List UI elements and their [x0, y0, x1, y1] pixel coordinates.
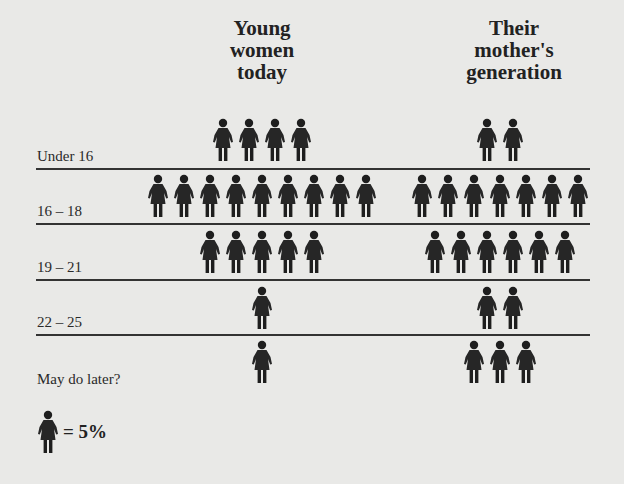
woman-figure-icon — [250, 340, 274, 384]
woman-figure-icon — [449, 230, 473, 274]
woman-figure-icon — [462, 174, 486, 218]
woman-figure-icon — [540, 174, 564, 218]
woman-figure-icon — [423, 230, 447, 274]
column-title-young-women: Young women today — [172, 17, 352, 83]
woman-figure-icon — [501, 286, 525, 330]
woman-figure-icon — [224, 174, 248, 218]
figures-mother — [475, 118, 525, 162]
woman-figure-icon — [514, 174, 538, 218]
woman-figure-icon — [276, 230, 300, 274]
figures-young — [146, 174, 378, 218]
woman-figure-icon — [475, 118, 499, 162]
woman-figure-icon — [566, 174, 590, 218]
woman-figure-icon — [198, 174, 222, 218]
woman-figure-icon — [250, 286, 274, 330]
woman-figure-icon — [475, 286, 499, 330]
woman-figure-icon — [224, 230, 248, 274]
figures-young — [250, 286, 274, 330]
row-label-19-21: 19 – 21 — [37, 259, 82, 276]
woman-figure-icon — [488, 174, 512, 218]
woman-figure-icon — [198, 230, 222, 274]
title-line: mother's — [424, 39, 604, 61]
woman-figure-icon — [354, 174, 378, 218]
woman-figure-icon — [289, 118, 313, 162]
woman-figure-icon — [553, 230, 577, 274]
figures-mother — [423, 230, 577, 274]
title-line: Young — [172, 17, 352, 39]
figures-mother — [475, 286, 525, 330]
woman-figure-icon — [410, 174, 434, 218]
woman-figure-icon — [462, 340, 486, 384]
title-line: women — [172, 39, 352, 61]
row-divider — [36, 168, 590, 170]
woman-figure-icon — [276, 174, 300, 218]
woman-figure-icon — [501, 230, 525, 274]
woman-figure-icon — [302, 174, 326, 218]
figures-mother — [410, 174, 590, 218]
legend: = 5% — [36, 410, 107, 454]
row-divider — [36, 279, 590, 281]
figures-young — [211, 118, 313, 162]
legend-text: = 5% — [63, 421, 107, 443]
row-label-under-16: Under 16 — [37, 148, 93, 165]
woman-figure-icon — [475, 230, 499, 274]
woman-figure-icon — [36, 410, 60, 454]
woman-figure-icon — [263, 118, 287, 162]
woman-figure-icon — [328, 174, 352, 218]
title-line: today — [172, 61, 352, 83]
woman-figure-icon — [250, 230, 274, 274]
woman-figure-icon — [302, 230, 326, 274]
row-label-22-25: 22 – 25 — [37, 314, 82, 331]
row-label-16-18: 16 – 18 — [37, 203, 82, 220]
row-label-may-do-later: May do later? — [37, 371, 120, 388]
row-divider — [36, 334, 590, 336]
woman-figure-icon — [527, 230, 551, 274]
woman-figure-icon — [211, 118, 235, 162]
row-divider — [36, 223, 590, 225]
title-line: generation — [424, 61, 604, 83]
woman-figure-icon — [146, 174, 170, 218]
woman-figure-icon — [436, 174, 460, 218]
woman-figure-icon — [250, 174, 274, 218]
woman-figure-icon — [501, 118, 525, 162]
woman-figure-icon — [172, 174, 196, 218]
title-line: Their — [424, 17, 604, 39]
woman-figure-icon — [488, 340, 512, 384]
woman-figure-icon — [237, 118, 261, 162]
figures-young — [250, 340, 274, 384]
figures-mother — [462, 340, 538, 384]
column-title-mothers-generation: Their mother's generation — [424, 17, 604, 83]
figures-young — [198, 230, 326, 274]
woman-figure-icon — [514, 340, 538, 384]
